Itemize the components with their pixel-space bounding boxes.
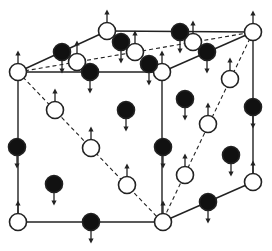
black-atom-spin-down [223, 147, 240, 175]
white-atom-icon [99, 23, 116, 40]
black-atom-icon [118, 102, 135, 119]
black-atom-icon [199, 44, 216, 61]
black-atom-spin-down [46, 176, 63, 204]
black-atom-icon [245, 99, 262, 116]
white-atom-icon [10, 214, 27, 231]
black-atom-spin-down [200, 194, 217, 222]
white-atom-icon [200, 116, 217, 133]
white-atom-spin-up [245, 163, 262, 191]
black-atom-icon [141, 56, 158, 73]
white-atom-spin-up [10, 53, 27, 81]
white-atom-icon [222, 71, 239, 88]
black-atom-icon [46, 176, 63, 193]
white-atom-spin-up [245, 13, 262, 41]
white-atom-spin-up [177, 156, 194, 184]
black-atom-icon [177, 91, 194, 108]
black-atom-spin-down [82, 64, 99, 92]
black-atom-icon [113, 34, 130, 51]
white-atom-icon [119, 177, 136, 194]
white-atom-spin-up [83, 129, 100, 157]
black-atom-icon [9, 139, 26, 156]
black-atom-spin-down [141, 56, 158, 84]
white-atom-spin-up [222, 60, 239, 88]
white-atom-icon [245, 174, 262, 191]
black-atom-icon [82, 64, 99, 81]
black-atom-spin-down [177, 91, 194, 119]
white-atom-spin-up [10, 203, 27, 231]
black-atom-spin-down [155, 139, 172, 167]
white-atom-spin-up [99, 12, 116, 40]
black-atom-spin-down [54, 44, 71, 72]
black-atom-icon [83, 214, 100, 231]
black-atom-spin-down [245, 99, 262, 127]
black-atom-spin-down [9, 139, 26, 167]
white-atom-icon [177, 167, 194, 184]
crystal-lattice-diagram [0, 0, 272, 251]
white-atom-spin-up [47, 91, 64, 119]
black-atom-spin-down [113, 34, 130, 62]
lattice-atoms [9, 12, 262, 241]
white-atom-icon [245, 24, 262, 41]
white-atom-icon [83, 140, 100, 157]
white-atom-icon [47, 102, 64, 119]
white-atom-icon [10, 64, 27, 81]
black-atom-spin-down [118, 102, 135, 130]
black-atom-icon [200, 194, 217, 211]
black-atom-icon [155, 139, 172, 156]
black-atom-spin-down [83, 214, 100, 242]
white-atom-spin-up [200, 105, 217, 133]
black-atom-icon [223, 147, 240, 164]
black-atom-icon [172, 24, 189, 41]
black-atom-spin-down [199, 44, 216, 72]
white-atom-spin-up [155, 203, 172, 231]
black-atom-icon [54, 44, 71, 61]
white-atom-icon [155, 214, 172, 231]
white-atom-spin-up [127, 33, 144, 61]
white-atom-spin-up [119, 166, 136, 194]
